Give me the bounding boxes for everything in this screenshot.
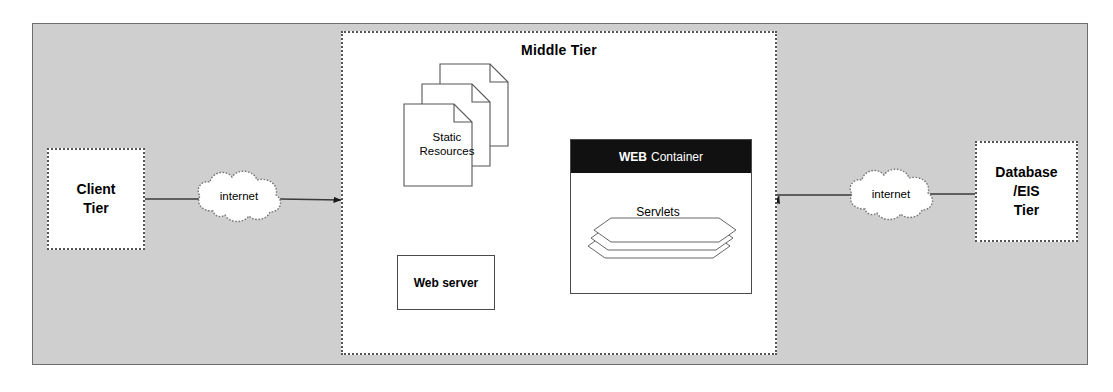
static-resources-label: Static Resources: [404, 130, 490, 159]
static-resources-line2: Resources: [420, 145, 475, 157]
database-tier-line3: Tier: [1014, 202, 1039, 218]
client-tier-line2: Tier: [83, 200, 108, 216]
internet-cloud-right-label: internet: [843, 188, 939, 200]
web-container-keyword: WEB: [619, 150, 647, 164]
web-container-header-rest: Container: [651, 150, 703, 164]
static-resources-stack[interactable]: Static Resources: [400, 62, 550, 202]
web-container-box[interactable]: WEB Container Servlets: [570, 139, 752, 294]
middle-tier-title: Middle Tier: [343, 42, 775, 58]
database-tier-label: Database /EIS Tier: [995, 163, 1057, 220]
internet-cloud-right: internet: [843, 163, 939, 227]
internet-cloud-left-label: internet: [191, 190, 287, 202]
database-tier-box[interactable]: Database /EIS Tier: [975, 141, 1078, 242]
servlets-stack[interactable]: Servlets: [585, 198, 737, 280]
client-tier-label: Client Tier: [77, 180, 116, 218]
web-server-box[interactable]: Web server: [397, 255, 495, 310]
diagram-canvas: Client Tier internet Middle Tier Static …: [0, 0, 1113, 392]
static-resources-line1: Static: [433, 131, 462, 143]
web-container-header: WEB Container: [571, 140, 751, 173]
client-tier-box[interactable]: Client Tier: [47, 148, 145, 250]
servlets-label: Servlets: [585, 205, 731, 219]
web-server-label: Web server: [414, 276, 478, 290]
database-tier-line2: /EIS: [1013, 183, 1039, 199]
client-tier-line1: Client: [77, 181, 116, 197]
database-tier-line1: Database: [995, 164, 1057, 180]
internet-cloud-left: internet: [191, 165, 287, 229]
